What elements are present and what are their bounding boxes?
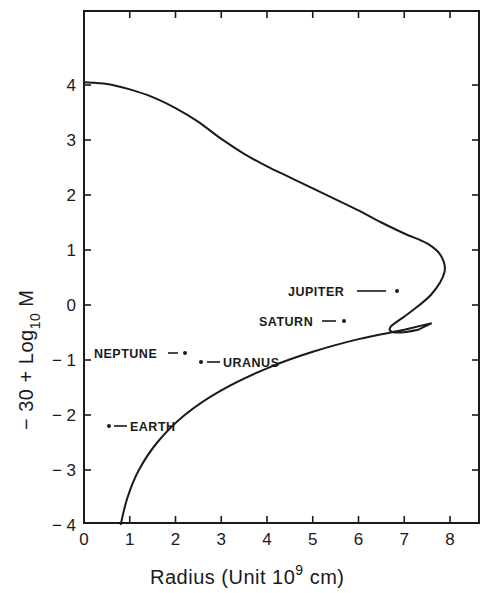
jupiter-label: JUPITER (288, 285, 344, 299)
x-tick-label: 8 (445, 530, 454, 549)
x-tick-label: 3 (217, 530, 226, 549)
planet-markers: JUPITER SATURN NEPTUNE URANUS EARTH (94, 285, 399, 434)
neptune-point (183, 351, 187, 355)
y-axis-ticks: 43210− 1− 2− 3− 4 (52, 76, 479, 535)
y-axis-title: − 30 + Log10 M (15, 290, 43, 430)
x-tick-label: 1 (125, 530, 134, 549)
x-tick-label: 7 (400, 530, 409, 549)
x-tick-label: 2 (171, 530, 180, 549)
neptune-label: NEPTUNE (94, 347, 157, 361)
y-tick-label: − 4 (52, 516, 76, 535)
saturn-label: SATURN (259, 315, 313, 329)
y-tick-label: − 1 (52, 351, 76, 370)
x-tick-label: 6 (354, 530, 363, 549)
y-tick-label: − 2 (52, 406, 76, 425)
x-axis-title: Radius (Unit 109 cm) (150, 562, 345, 588)
earth-label: EARTH (130, 420, 176, 434)
uranus-label: URANUS (223, 356, 279, 370)
x-tick-label: 5 (308, 530, 317, 549)
x-tick-label: 4 (262, 530, 271, 549)
y-tick-label: 2 (67, 186, 76, 205)
y-tick-label: 1 (67, 241, 76, 260)
jupiter-point (395, 289, 399, 293)
y-tick-label: 3 (67, 131, 76, 150)
uranus-point (199, 360, 203, 364)
y-tick-label: 0 (67, 296, 76, 315)
saturn-point (342, 319, 346, 323)
mass-radius-chart: 012345678 43210− 1− 2− 3− 4 JUPITER SATU… (0, 0, 488, 593)
earth-point (107, 424, 111, 428)
plot-frame (84, 11, 479, 523)
y-tick-label: 4 (67, 76, 76, 95)
mass-radius-curve (84, 82, 445, 525)
y-tick-label: − 3 (52, 461, 76, 480)
x-tick-label: 0 (79, 530, 88, 549)
